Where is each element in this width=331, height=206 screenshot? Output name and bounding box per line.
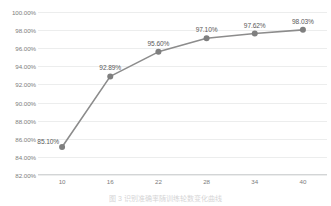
y-axis-tick-label: 92.00% (0, 81, 36, 88)
data-point-label: 97.62% (244, 22, 266, 29)
y-axis-tick-label: 94.00% (0, 63, 36, 70)
data-point-label: 98.03% (292, 18, 314, 25)
data-point-marker (155, 49, 161, 55)
data-point-label: 92.89% (99, 64, 121, 71)
data-point-marker (107, 73, 113, 79)
data-point-label: 97.10% (196, 26, 218, 33)
data-point-label: 85.10% (37, 138, 59, 145)
y-axis-tick-label: 90.00% (0, 99, 36, 106)
gridline (38, 175, 327, 176)
plot-area: 85.10%92.89%95.60%97.10%97.62%98.03% (38, 12, 327, 175)
y-axis-tick-label: 98.00% (0, 27, 36, 34)
data-point-label: 95.60% (148, 40, 170, 47)
chart-container: 100.00%98.00%96.00%94.00%92.00%90.00%88.… (0, 0, 331, 206)
x-axis-tick-label: 40 (299, 178, 306, 185)
x-axis-tick-label: 22 (155, 178, 162, 185)
x-axis-tick-label: 10 (59, 178, 66, 185)
y-axis-tick-label: 82.00% (0, 172, 36, 179)
data-point-marker (300, 27, 306, 33)
y-axis-tick-label: 86.00% (0, 135, 36, 142)
data-point-marker (59, 144, 65, 150)
x-axis-tick-label: 34 (251, 178, 258, 185)
y-axis-tick-label: 100.00% (0, 9, 36, 16)
series-line (62, 30, 303, 147)
x-axis-labels: 101622283440 (38, 178, 327, 190)
y-axis-tick-label: 88.00% (0, 117, 36, 124)
x-axis-tick-label: 28 (203, 178, 210, 185)
figure-caption: 图 3 识别准确率随训练轮数变化曲线 (0, 193, 331, 206)
y-axis-tick-label: 96.00% (0, 45, 36, 52)
line-series (38, 12, 327, 175)
x-axis-tick-label: 16 (107, 178, 114, 185)
data-point-marker (252, 31, 258, 37)
y-axis-tick-label: 84.00% (0, 153, 36, 160)
data-point-marker (204, 35, 210, 41)
y-axis-labels: 100.00%98.00%96.00%94.00%92.00%90.00%88.… (0, 12, 36, 175)
